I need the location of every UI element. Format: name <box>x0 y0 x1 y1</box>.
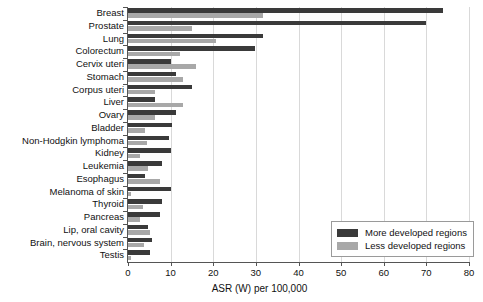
x-axis-tick <box>341 262 342 266</box>
bar-less-developed <box>128 39 216 44</box>
bar-less-developed <box>128 192 131 197</box>
bar-more-developed <box>128 148 171 153</box>
x-axis-tick <box>213 262 214 266</box>
bar-more-developed <box>128 161 162 166</box>
bar-row <box>128 45 469 58</box>
x-axis-tick <box>426 262 427 266</box>
bar-more-developed <box>128 174 145 179</box>
bar-more-developed <box>128 34 263 39</box>
category-label: Bladder <box>0 122 124 135</box>
bar-less-developed <box>128 103 183 108</box>
category-label: Brain, nervous system <box>0 237 124 250</box>
bar-row <box>128 7 469 20</box>
bar-row <box>128 33 469 46</box>
category-label: Stomach <box>0 71 124 84</box>
x-axis-tick-label: 50 <box>336 267 347 278</box>
y-axis-tick <box>123 186 128 187</box>
bar-row <box>128 71 469 84</box>
bar-more-developed <box>128 225 148 230</box>
category-label: Cervix uteri <box>0 58 124 71</box>
bar-less-developed <box>128 90 155 95</box>
x-axis-tick-label: 30 <box>251 267 262 278</box>
bar-row <box>128 58 469 71</box>
category-label: Esophagus <box>0 173 124 186</box>
bar-less-developed <box>128 205 143 210</box>
x-axis-tick <box>384 262 385 266</box>
bar-less-developed <box>128 128 145 133</box>
bar-more-developed <box>128 250 150 255</box>
bar-row <box>128 122 469 135</box>
legend-label-less-developed: Less developed regions <box>365 240 465 251</box>
category-label: Liver <box>0 96 124 109</box>
legend-swatch-more-developed <box>337 229 358 237</box>
x-axis-tick-label: 10 <box>165 267 176 278</box>
y-axis-tick <box>123 147 128 148</box>
category-label: Ovary <box>0 109 124 122</box>
x-axis-title: ASR (W) per 100,000 <box>0 283 483 294</box>
bar-more-developed <box>128 212 160 217</box>
bar-row <box>128 186 469 199</box>
bar-less-developed <box>128 230 150 235</box>
bar-more-developed <box>128 238 152 243</box>
category-label: Melanoma of skin <box>0 186 124 199</box>
y-axis-tick <box>123 84 128 85</box>
bar-more-developed <box>128 136 169 141</box>
bar-more-developed <box>128 46 255 51</box>
bar-less-developed <box>128 179 160 184</box>
category-label: Lip, oral cavity <box>0 224 124 237</box>
bar-row <box>128 147 469 160</box>
x-axis-tick-label: 0 <box>125 267 130 278</box>
y-axis-tick <box>123 109 128 110</box>
y-axis-tick <box>123 96 128 97</box>
bar-less-developed <box>128 243 144 248</box>
bar-less-developed <box>128 256 131 261</box>
bar-row <box>128 173 469 186</box>
y-axis-tick <box>123 135 128 136</box>
bar-more-developed <box>128 59 171 64</box>
bar-more-developed <box>128 85 192 90</box>
y-axis-tick <box>123 58 128 59</box>
bar-more-developed <box>128 199 162 204</box>
y-axis-tick <box>123 237 128 238</box>
x-axis-tick <box>299 262 300 266</box>
y-axis-tick <box>123 33 128 34</box>
bar-less-developed <box>128 166 148 171</box>
category-labels: BreastProstateLungColorectumCervix uteri… <box>0 7 124 262</box>
x-axis-tick <box>256 262 257 266</box>
bar-less-developed <box>128 13 263 18</box>
category-label: Pancreas <box>0 211 124 224</box>
category-label: Testis <box>0 249 124 262</box>
y-axis-tick <box>123 249 128 250</box>
bar-less-developed <box>128 154 140 159</box>
bar-more-developed <box>128 72 176 77</box>
bar-row <box>128 96 469 109</box>
category-label: Breast <box>0 7 124 20</box>
legend-label-more-developed: More developed regions <box>365 227 467 238</box>
bar-chart: BreastProstateLungColorectumCervix uteri… <box>0 0 483 302</box>
y-axis-tick <box>123 71 128 72</box>
x-axis-tick <box>128 262 129 266</box>
y-axis-tick <box>123 211 128 212</box>
bar-more-developed <box>128 110 176 115</box>
category-label: Non-Hodgkin lymphoma <box>0 135 124 148</box>
x-axis-tick-label: 20 <box>208 267 219 278</box>
y-axis-tick <box>123 160 128 161</box>
legend-swatch-less-developed <box>337 242 358 250</box>
category-label: Lung <box>0 33 124 46</box>
legend-item-more-developed: More developed regions <box>337 226 468 239</box>
x-axis-tick <box>171 262 172 266</box>
y-axis-tick <box>123 173 128 174</box>
legend: More developed regions Less developed re… <box>331 221 474 257</box>
x-axis-title-text: ASR (W) per 100,000 <box>212 283 308 294</box>
category-label: Prostate <box>0 20 124 33</box>
y-axis-tick <box>123 122 128 123</box>
bar-more-developed <box>128 123 172 128</box>
bar-more-developed <box>128 21 426 26</box>
bar-row <box>128 160 469 173</box>
x-axis-tick <box>469 262 470 266</box>
bar-less-developed <box>128 141 147 146</box>
y-axis-tick <box>123 20 128 21</box>
x-axis-tick-label: 80 <box>464 267 475 278</box>
x-axis-tick-label: 40 <box>293 267 304 278</box>
y-axis-tick <box>123 224 128 225</box>
